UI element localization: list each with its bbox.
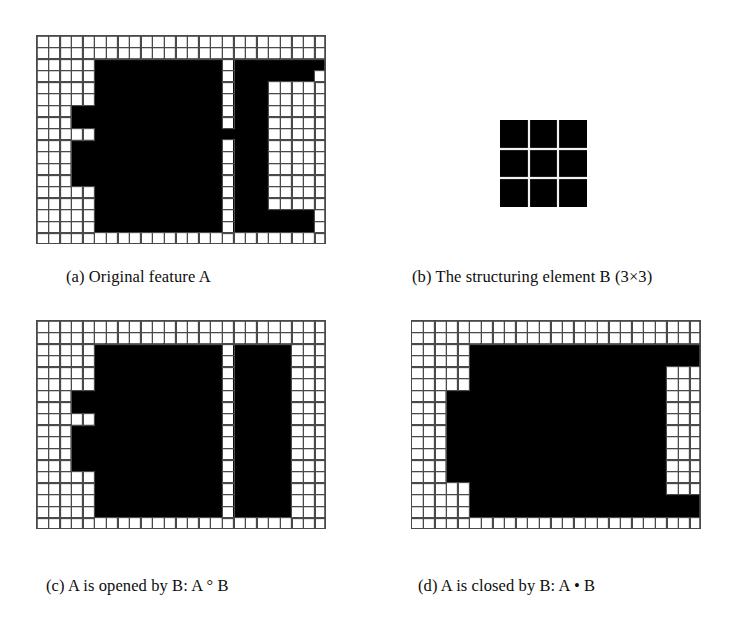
figure-root: (a) Original feature A (b) The structuri…: [0, 0, 741, 624]
structuring-element-3x3: [500, 120, 587, 207]
caption-panel-a: (a) Original feature A: [66, 268, 211, 286]
caption-panel-b: (b) The structuring element B (3×3): [412, 268, 652, 286]
panel-d-grid: [411, 320, 701, 529]
panel-c-grid: [36, 320, 326, 529]
caption-panel-c: (c) A is opened by B: A ° B: [46, 577, 229, 595]
original-feature-grid: [36, 35, 326, 244]
panel-a-grid: [36, 35, 326, 244]
opened-feature-grid: [36, 320, 326, 529]
caption-panel-d: (d) A is closed by B: A • B: [418, 577, 595, 595]
panel-b-structuring-element: [500, 120, 587, 207]
closed-feature-grid: [411, 320, 701, 529]
